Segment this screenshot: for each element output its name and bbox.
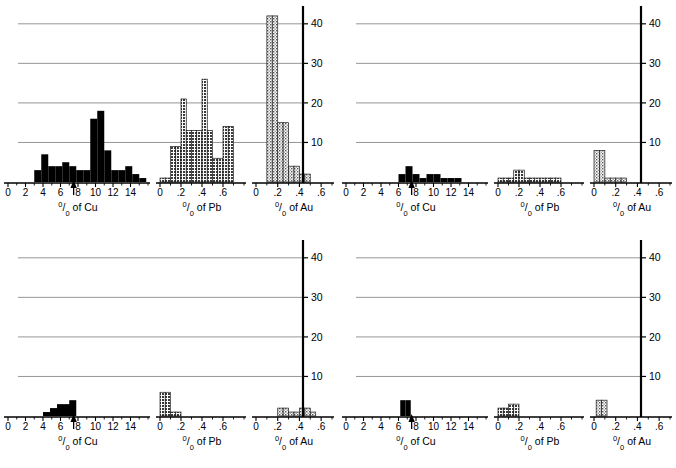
bar (160, 392, 165, 416)
x-tick-label: .2 (612, 187, 621, 198)
bar (228, 127, 233, 182)
y-tick-label: 10 (649, 370, 661, 382)
x-tick-label: 0 (495, 187, 501, 198)
bar (125, 166, 132, 182)
axis-title-au: 0/0of Au (613, 200, 651, 218)
bar (165, 392, 170, 416)
x-tick-label: 14 (463, 187, 475, 198)
x-tick-label: 0 (157, 421, 163, 432)
y-tick-label: 10 (311, 370, 323, 382)
bar (192, 131, 197, 182)
y-tick-label: 30 (649, 57, 661, 69)
histogram-cu (43, 400, 76, 416)
x-tick-label: .4 (633, 187, 642, 198)
x-tick-label: 0 (253, 421, 259, 432)
x-tick-label: 12 (107, 421, 119, 432)
x-tick-label: .2 (177, 421, 186, 432)
bar (602, 400, 607, 416)
bar (272, 16, 277, 182)
x-tick-label: 6 (396, 421, 402, 432)
bar (400, 400, 405, 416)
x-tick-label: 4 (40, 421, 46, 432)
bar (535, 178, 540, 182)
x-tick-label: 10 (428, 421, 440, 432)
bar (171, 412, 176, 416)
bar (43, 412, 50, 416)
bar (132, 174, 139, 182)
x-tick-label: 10 (90, 187, 102, 198)
x-tick-label: 8 (413, 421, 419, 432)
bar (267, 16, 272, 182)
x-tick-label: .6 (655, 421, 664, 432)
bar (503, 408, 508, 416)
x-axis-pb: 0.2.4.6 (156, 417, 246, 432)
y-tick-label: 40 (311, 17, 323, 29)
bar (118, 170, 125, 182)
x-tick-label: 8 (75, 187, 81, 198)
bar (540, 178, 545, 182)
axis-title-cu: 0/0of Cu (396, 434, 436, 452)
bar (283, 408, 288, 416)
axis-title-pb: 0/0of Pb (521, 434, 560, 452)
histogram-pb (160, 79, 234, 182)
y-tick-label: 30 (649, 291, 661, 303)
bar (278, 123, 283, 182)
x-tick-label: .6 (557, 187, 566, 198)
x-axis-au: 0.2.4.6 (252, 417, 334, 432)
y-tick-label: 30 (311, 291, 323, 303)
x-tick-label: 0 (5, 421, 11, 432)
bar (420, 178, 427, 182)
x-tick-label: .2 (515, 421, 524, 432)
x-tick-label: .6 (655, 187, 664, 198)
x-axis-cu: 02468101214 (4, 417, 150, 432)
axis-title-au: 0/0of Au (613, 434, 651, 452)
x-tick-label: .4 (198, 421, 207, 432)
x-axis-pb: 0.2.4.6 (156, 183, 246, 198)
bar (186, 131, 191, 182)
x-tick-label: 4 (40, 187, 46, 198)
x-tick-label: 2 (23, 421, 29, 432)
x-axis-au: 0.2.4.6 (590, 417, 672, 432)
bar (181, 99, 186, 182)
bar (34, 170, 41, 182)
bar (427, 174, 434, 182)
figure-grid: 024681012140/0of Cu0.2.4.60/0of Pb0.2.4.… (0, 0, 676, 468)
x-tick-label: 0 (157, 187, 163, 198)
bar (176, 146, 181, 182)
x-tick-label: 0 (495, 421, 501, 432)
axis-title-au: 0/0of Au (275, 200, 313, 218)
x-tick-label: .4 (295, 421, 304, 432)
x-tick-label: .4 (295, 187, 304, 198)
bar (69, 166, 76, 182)
x-tick-label: 10 (428, 187, 440, 198)
bar (165, 178, 170, 182)
bar (406, 166, 413, 182)
x-tick-label: .6 (219, 187, 228, 198)
bar (503, 178, 508, 182)
bar (524, 178, 529, 182)
bar (610, 178, 615, 182)
y-tick-label: 20 (649, 97, 661, 109)
x-tick-label: .2 (177, 187, 186, 198)
bar (76, 170, 83, 182)
bar (399, 174, 406, 182)
bar (498, 408, 503, 416)
y-tick-label: 40 (649, 251, 661, 263)
bar (441, 178, 448, 182)
bar (57, 404, 64, 416)
x-tick-label: .2 (515, 187, 524, 198)
bar (97, 111, 104, 182)
bar (413, 174, 420, 182)
bar (176, 412, 181, 416)
x-tick-label: .4 (536, 187, 545, 198)
x-axis-cu: 02468101214 (4, 183, 150, 198)
bar (41, 154, 48, 182)
bar (310, 412, 315, 416)
x-tick-label: 4 (378, 187, 384, 198)
y-axis: 10203040 (641, 6, 661, 183)
x-tick-label: .4 (198, 187, 207, 198)
bar (514, 404, 519, 416)
x-tick-label: .6 (557, 421, 566, 432)
bar (509, 404, 514, 416)
x-tick-label: 0 (5, 187, 11, 198)
